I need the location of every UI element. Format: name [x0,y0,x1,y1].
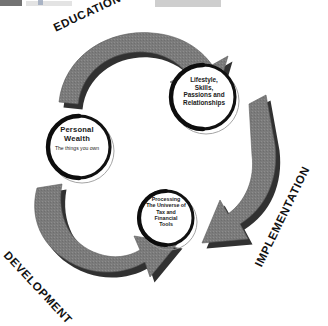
node-circle-personal-wealth [48,116,114,183]
node-circle-lifestyle [171,65,239,134]
